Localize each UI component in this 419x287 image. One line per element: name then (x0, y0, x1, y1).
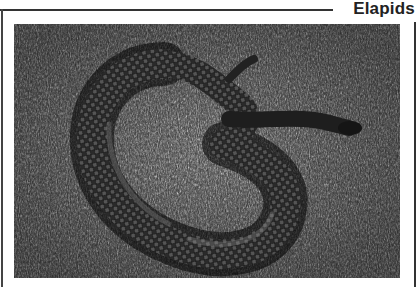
frame-right-rule (414, 22, 416, 287)
snake-photo-graphic (14, 24, 400, 278)
snake-photo (14, 24, 400, 278)
frame-left-rule (1, 9, 3, 287)
section-title: Elapids (353, 0, 415, 19)
frame-top-rule (0, 9, 333, 11)
